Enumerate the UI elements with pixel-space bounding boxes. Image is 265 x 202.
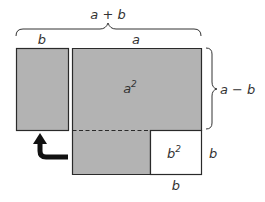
label-small-right-b: b xyxy=(209,146,217,161)
moved-rectangle xyxy=(17,49,69,131)
label-top-left-b: b xyxy=(38,32,46,47)
difference-of-squares-diagram: a + b b a a2 b2 a − b b b xyxy=(0,0,265,202)
label-top-right-a: a xyxy=(132,32,140,47)
label-top-total: a + b xyxy=(90,7,125,22)
move-arrow-icon xyxy=(33,133,68,157)
right-brace xyxy=(206,48,217,129)
label-a-minus-b: a − b xyxy=(220,82,255,97)
label-small-bottom-b: b xyxy=(172,178,180,193)
